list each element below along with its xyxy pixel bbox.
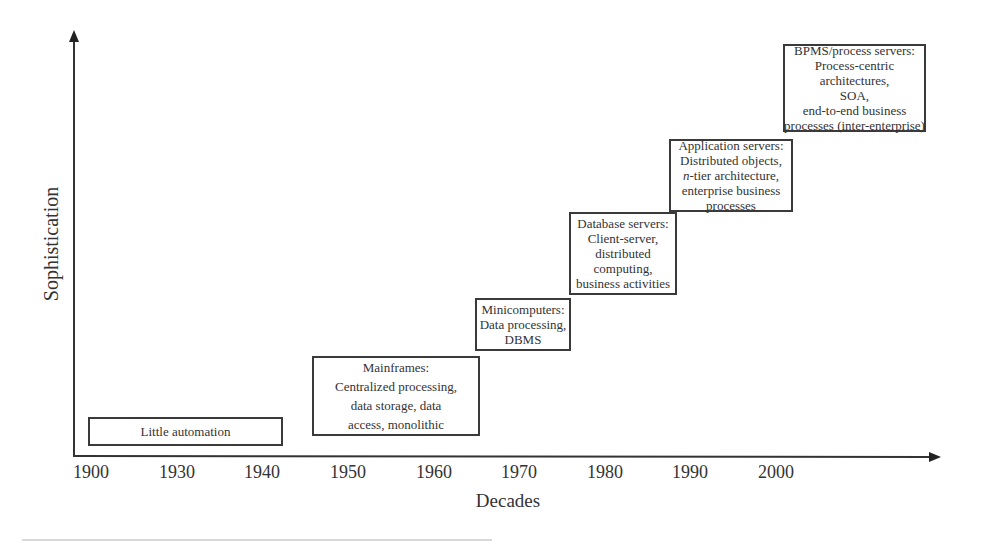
stage-text: Process-centric — [815, 58, 894, 73]
caption-divider — [22, 539, 492, 541]
tick-1950: 1950 — [330, 462, 366, 483]
stage-text: Client-server, — [588, 231, 659, 246]
stage-box-bpms-process-servers: BPMS/process servers: Process-centric ar… — [783, 44, 926, 132]
stage-text: processes — [706, 198, 756, 213]
stage-text: Distributed objects, — [680, 153, 782, 168]
stage-title: Application servers: — [678, 138, 783, 153]
x-axis-label: Decades — [476, 490, 540, 512]
stage-text: enterprise business — [682, 183, 781, 198]
stage-text-rest: -tier architecture, — [690, 168, 780, 183]
stage-box-application-servers: Application servers: Distributed objects… — [669, 139, 793, 212]
stage-text: Centralized processing, — [335, 377, 457, 396]
stage-text: computing, — [594, 261, 653, 276]
x-axis-arrow-icon — [929, 452, 941, 462]
evolution-diagram: Sophistication Decades 1900 1930 1940 19… — [0, 0, 987, 548]
stage-text: access, monolithic — [348, 415, 444, 434]
stage-text: data storage, data — [351, 396, 442, 415]
stage-text: n-tier architecture, — [683, 168, 779, 183]
y-axis-label: Sophistication — [40, 187, 63, 301]
x-axis-line — [73, 456, 930, 457]
stage-text: distributed — [595, 246, 651, 261]
tick-1900: 1900 — [73, 462, 109, 483]
stage-title: Mainframes: — [363, 358, 429, 377]
stage-text: processes (inter-enterprise) — [784, 118, 925, 133]
stage-text: DBMS — [505, 332, 542, 347]
stage-title: Database servers: — [577, 216, 668, 231]
stage-text: SOA, — [840, 88, 869, 103]
stage-text: end-to-end business — [803, 103, 907, 118]
tick-1930: 1930 — [159, 462, 195, 483]
tick-1980: 1980 — [587, 462, 623, 483]
tick-1970: 1970 — [501, 462, 537, 483]
stage-text: architectures, — [820, 73, 890, 88]
stage-text: Little automation — [141, 424, 231, 439]
tick-1990: 1990 — [672, 462, 708, 483]
stage-title: BPMS/process servers: — [794, 43, 915, 58]
stage-box-mainframes: Mainframes: Centralized processing, data… — [312, 356, 480, 436]
tick-1940: 1940 — [244, 462, 280, 483]
tick-2000: 2000 — [758, 462, 794, 483]
stage-text: business activities — [576, 276, 670, 291]
stage-text: Data processing, — [480, 317, 567, 332]
stage-box-little-automation: Little automation — [88, 417, 283, 446]
y-axis-arrow-icon — [69, 30, 79, 42]
stage-box-minicomputers: Minicomputers: Data processing, DBMS — [475, 298, 571, 351]
tick-1960: 1960 — [416, 462, 452, 483]
stage-box-database-servers: Database servers: Client-server, distrib… — [569, 212, 677, 295]
stage-title: Minicomputers: — [481, 302, 564, 317]
